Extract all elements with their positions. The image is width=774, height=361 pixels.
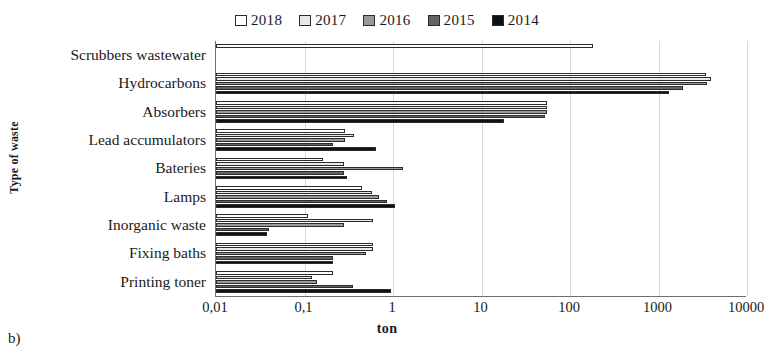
bar-2018[interactable] <box>216 129 345 133</box>
bar-2017[interactable] <box>216 276 312 280</box>
bar-group <box>216 211 747 239</box>
bar-2018[interactable] <box>216 44 593 48</box>
x-axis-line <box>215 296 746 297</box>
bar-2016[interactable] <box>216 252 366 256</box>
bar-2016[interactable] <box>216 110 547 114</box>
plot-area <box>215 41 747 296</box>
bar-2017[interactable] <box>216 106 547 110</box>
bar-2017[interactable] <box>216 219 373 223</box>
bar-2014[interactable] <box>216 147 376 151</box>
legend-label: 2015 <box>444 12 475 29</box>
legend-label: 2017 <box>315 12 346 29</box>
bar-2015[interactable] <box>216 115 545 119</box>
legend-entry-2017[interactable]: 2017 <box>299 12 346 29</box>
bar-2016[interactable] <box>216 195 379 199</box>
bar-2014[interactable] <box>216 119 504 123</box>
bar-2016[interactable] <box>216 223 344 227</box>
bar-group <box>216 154 747 182</box>
bar-2016[interactable] <box>216 280 317 284</box>
bar-2018[interactable] <box>216 186 362 190</box>
category-label: Absorbers <box>142 98 206 126</box>
bar-2014[interactable] <box>216 261 333 265</box>
bar-2014[interactable] <box>216 204 395 208</box>
legend-label: 2018 <box>251 12 282 29</box>
x-tick-label: 10000 <box>728 299 764 316</box>
square-swatch <box>363 15 375 26</box>
gridline <box>747 41 748 296</box>
x-axis-title: ton <box>0 321 774 337</box>
x-tick-label: 10 <box>473 299 488 316</box>
bar-2014[interactable] <box>216 176 347 180</box>
bar-2017[interactable] <box>216 134 354 138</box>
bar-2014[interactable] <box>216 289 391 293</box>
x-tick-label: 1000 <box>643 299 672 316</box>
x-tick-label: 100 <box>558 299 580 316</box>
bar-2016[interactable] <box>216 138 345 142</box>
legend-entry-2018[interactable]: 2018 <box>235 12 282 29</box>
bar-2015[interactable] <box>216 256 333 260</box>
square-swatch <box>428 15 440 26</box>
square-swatch <box>235 15 247 26</box>
square-swatch <box>492 15 504 26</box>
x-tick-label: 0,1 <box>294 299 312 316</box>
bar-2016[interactable] <box>216 167 403 171</box>
legend-entry-2014[interactable]: 2014 <box>492 12 539 29</box>
bar-2018[interactable] <box>216 101 547 105</box>
category-label: Hydrocarbons <box>118 69 206 97</box>
square-swatch <box>299 15 311 26</box>
bar-2018[interactable] <box>216 214 308 218</box>
category-label: Inorganic waste <box>108 211 206 239</box>
bar-group <box>216 98 747 126</box>
legend-label: 2016 <box>379 12 410 29</box>
bar-group <box>216 41 747 69</box>
bar-2016[interactable] <box>216 82 707 86</box>
bar-2017[interactable] <box>216 162 344 166</box>
category-label: Lamps <box>164 183 206 211</box>
bar-2014[interactable] <box>216 91 669 95</box>
bar-2015[interactable] <box>216 200 387 204</box>
bar-group <box>216 69 747 97</box>
bar-2015[interactable] <box>216 228 269 232</box>
bar-2018[interactable] <box>216 271 333 275</box>
x-tick-label: 1 <box>388 299 395 316</box>
bar-2017[interactable] <box>216 77 711 81</box>
bar-2017[interactable] <box>216 247 373 251</box>
chart-legend: 20182017201620152014 <box>0 12 774 29</box>
bar-2015[interactable] <box>216 285 353 289</box>
bar-2018[interactable] <box>216 243 373 247</box>
bar-group <box>216 126 747 154</box>
bar-group <box>216 183 747 211</box>
bar-chart: 20182017201620152014 Type of waste Scrub… <box>0 0 774 361</box>
y-axis-title: Type of waste <box>7 121 22 193</box>
bar-2018[interactable] <box>216 73 706 77</box>
bar-2015[interactable] <box>216 86 683 90</box>
category-label: Lead accumulators <box>89 126 206 154</box>
legend-entry-2015[interactable]: 2015 <box>428 12 475 29</box>
category-label: Bateries <box>155 154 206 182</box>
y-axis-category-labels: Scrubbers wastewaterHydrocarbonsAbsorber… <box>24 41 210 296</box>
bar-group <box>216 239 747 267</box>
bar-2015[interactable] <box>216 171 344 175</box>
bar-2014[interactable] <box>216 232 267 236</box>
bar-2018[interactable] <box>216 158 323 162</box>
category-label: Fixing baths <box>129 239 206 267</box>
legend-label: 2014 <box>508 12 539 29</box>
bar-2015[interactable] <box>216 143 333 147</box>
figure-label: b) <box>8 330 21 347</box>
bar-group <box>216 268 747 296</box>
legend-entry-2016[interactable]: 2016 <box>363 12 410 29</box>
bar-2017[interactable] <box>216 191 372 195</box>
x-tick-label: 0,01 <box>202 299 227 316</box>
category-label: Scrubbers wastewater <box>70 41 206 69</box>
category-label: Printing toner <box>120 268 206 296</box>
